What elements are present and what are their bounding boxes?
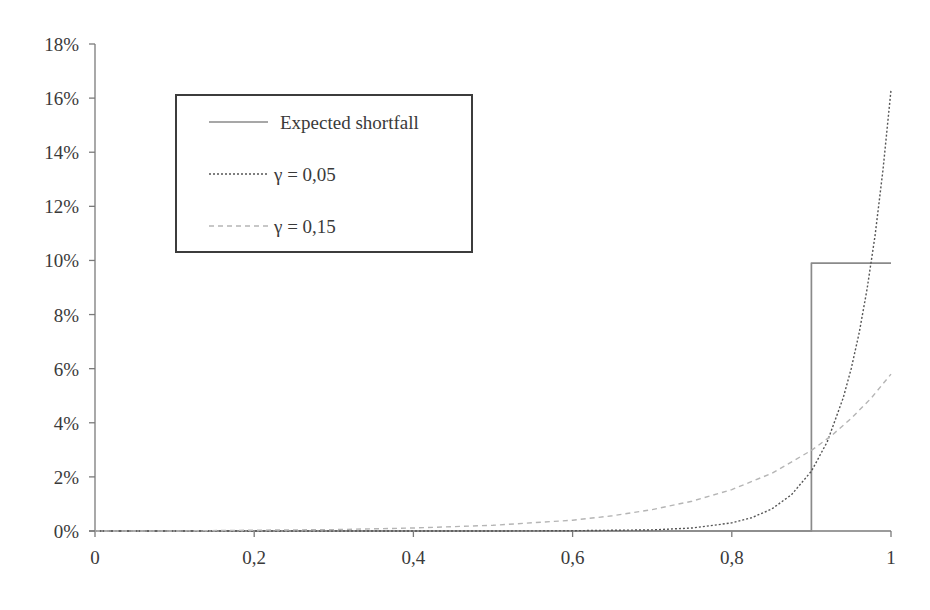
y-tick-label: 4% [54, 413, 80, 434]
series-expected-shortfall [95, 263, 891, 531]
y-axis: 0%2%4%6%8%10%12%14%16%18% [44, 34, 95, 542]
chart: 0%2%4%6%8%10%12%14%16%18% 00,20,40,60,81… [0, 0, 930, 610]
x-tick-label: 1 [886, 547, 896, 568]
series-gamma-015 [95, 374, 891, 531]
y-tick-label: 14% [44, 142, 79, 163]
x-tick-label: 0,6 [561, 547, 585, 568]
legend-label: γ = 0,05 [273, 164, 336, 185]
y-tick-label: 16% [44, 88, 79, 109]
legend: Expected shortfall γ = 0,05 γ = 0,15 [176, 95, 472, 252]
y-tick-label: 12% [44, 196, 79, 217]
x-tick-label: 0,8 [720, 547, 744, 568]
y-tick-label: 0% [54, 521, 80, 542]
y-tick-label: 2% [54, 467, 80, 488]
x-axis: 00,20,40,60,81 [89, 531, 896, 568]
y-tick-label: 10% [44, 250, 79, 271]
x-tick-label: 0,4 [402, 547, 426, 568]
y-tick-label: 18% [44, 34, 79, 55]
y-tick-label: 8% [54, 305, 80, 326]
y-tick-label: 6% [54, 359, 80, 380]
x-tick-label: 0 [90, 547, 100, 568]
legend-label: Expected shortfall [280, 112, 419, 133]
legend-label: γ = 0,15 [273, 216, 336, 237]
x-tick-label: 0,2 [242, 547, 266, 568]
